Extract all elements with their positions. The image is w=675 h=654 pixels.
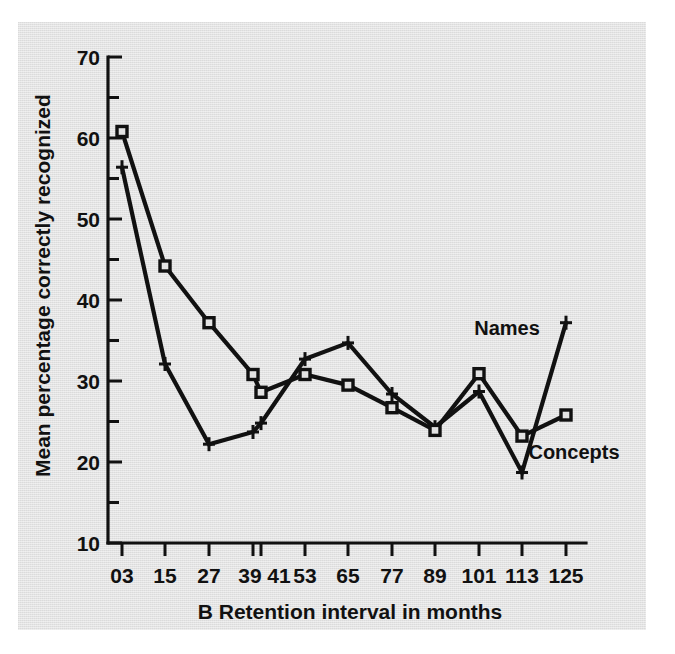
data-point-marker-square <box>160 261 170 271</box>
x-tick-label: 125 <box>548 564 583 587</box>
figure-panel: Mean percentage correctly recognized 70 <box>18 22 646 630</box>
x-tick-label: 39 <box>238 564 261 587</box>
x-tick-label: 03 <box>110 564 133 587</box>
y-axis-tick-labels: 70 60 50 40 30 20 10 <box>77 46 100 555</box>
data-point-marker-square <box>474 369 484 379</box>
x-axis-tick-labels: 03 15 27 39 41 53 65 77 89 101 113 125 <box>110 564 584 587</box>
x-tick-label: 27 <box>197 564 220 587</box>
data-point-marker-square <box>248 370 258 380</box>
x-tick-label: 101 <box>461 564 496 587</box>
data-point-marker-square <box>300 370 310 380</box>
y-tick-label: 30 <box>77 370 100 393</box>
x-tick-label: 77 <box>380 564 403 587</box>
data-point-marker-square <box>256 387 266 397</box>
x-axis-ticks <box>122 543 566 556</box>
data-point-marker-square <box>387 403 397 413</box>
series-label-names: Names <box>474 317 540 339</box>
data-point-marker-square <box>430 425 440 435</box>
y-axis-title: Mean percentage correctly recognized <box>31 94 54 477</box>
line-chart: Mean percentage correctly recognized 70 <box>18 22 646 630</box>
x-tick-label: 89 <box>423 564 446 587</box>
data-point-marker-square <box>517 431 527 441</box>
data-point-marker-square <box>561 410 571 420</box>
y-tick-label: 40 <box>77 289 100 312</box>
y-tick-label: 20 <box>77 451 100 474</box>
x-tick-label: 113 <box>505 564 539 587</box>
data-point-marker-square <box>117 127 127 137</box>
x-tick-label: 65 <box>336 564 360 587</box>
y-tick-label: 10 <box>77 532 100 555</box>
y-tick-label: 50 <box>77 208 100 231</box>
y-tick-label: 70 <box>77 46 100 69</box>
series-label-concepts: Concepts <box>528 441 619 463</box>
data-point-marker-square <box>343 380 353 390</box>
series-concepts <box>117 127 571 442</box>
x-tick-label: 41 <box>267 564 291 587</box>
x-tick-label: 53 <box>293 564 316 587</box>
data-point-marker-cross <box>116 160 128 174</box>
y-tick-label: 60 <box>77 127 100 150</box>
x-axis-title: B Retention interval in months <box>198 600 503 623</box>
x-tick-label: 15 <box>153 564 177 587</box>
data-point-marker-cross <box>560 316 572 330</box>
data-point-marker-square <box>204 318 214 328</box>
